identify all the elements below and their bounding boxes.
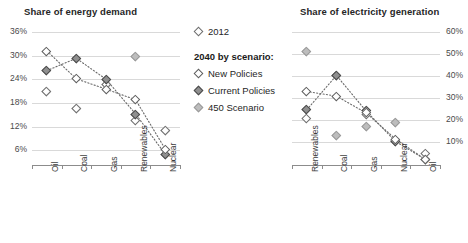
figure-root: Share of energy demand 36%30%24%18%12%6%… xyxy=(0,0,468,243)
series-connector-line xyxy=(32,32,180,162)
legend-item-label: 2012 xyxy=(208,26,229,37)
diamond-icon xyxy=(42,46,51,55)
y-axis-tick-label: 30% xyxy=(446,93,463,102)
data-point-marker xyxy=(131,95,140,104)
x-axis-tick xyxy=(150,165,151,169)
legend-item-current[interactable]: Current Policies xyxy=(193,85,275,96)
gridline xyxy=(32,150,180,151)
plot-area-left xyxy=(32,32,180,162)
chart-legend: 2040 by scenario: 2012New PoliciesCurren… xyxy=(190,0,282,243)
diamond-icon xyxy=(72,104,81,113)
diamond-icon xyxy=(391,118,400,127)
x-axis-category-label: Oil xyxy=(51,162,60,172)
y-axis-tick-label: 60% xyxy=(446,27,463,36)
legend-diamond-icon xyxy=(193,68,204,79)
diamond-icon xyxy=(101,84,110,93)
legend-item-label: 450 Scenario xyxy=(208,102,264,113)
diamond-icon xyxy=(72,74,81,83)
x-axis-category-label: Gas xyxy=(370,156,379,172)
x-axis-tick xyxy=(180,165,181,169)
data-point-marker xyxy=(302,47,311,56)
gridline xyxy=(292,32,440,33)
legend-diamond-icon xyxy=(193,26,204,37)
y-axis-tick-label: 50% xyxy=(446,49,463,58)
diamond-icon xyxy=(160,126,169,135)
chart-title-right: Share of electricity generation xyxy=(300,6,439,17)
data-point-marker xyxy=(42,66,51,75)
x-axis-tick xyxy=(91,165,92,169)
data-point-marker xyxy=(131,52,140,61)
x-axis-category-label: Oil xyxy=(429,162,438,172)
diamond-icon xyxy=(302,114,311,123)
diamond-icon xyxy=(131,95,140,104)
diamond-icon xyxy=(42,66,51,75)
data-point-marker xyxy=(72,74,81,83)
gridline xyxy=(292,76,440,77)
x-axis-tick xyxy=(32,165,33,169)
gridline xyxy=(32,32,180,33)
data-point-marker xyxy=(161,126,170,135)
x-axis-category-label: Nuclear xyxy=(400,143,409,172)
x-axis-tick xyxy=(440,165,441,169)
gridline xyxy=(32,127,180,128)
diamond-icon xyxy=(302,105,311,114)
legend-item-label: Current Policies xyxy=(208,85,275,96)
data-point-marker xyxy=(302,105,311,114)
diamond-icon xyxy=(332,131,341,140)
x-axis-tick xyxy=(292,165,293,169)
gridline xyxy=(32,103,180,104)
y-axis-tick-label: 30% xyxy=(0,51,27,60)
diamond-icon xyxy=(302,87,311,96)
x-axis-category-label: Renewables xyxy=(311,125,320,172)
data-point-marker xyxy=(332,71,341,80)
gridline xyxy=(292,98,440,99)
diamond-icon xyxy=(361,108,370,117)
gridline xyxy=(292,54,440,55)
data-point-marker xyxy=(131,109,140,118)
data-point-marker xyxy=(72,54,81,63)
legend-item-450[interactable]: 450 Scenario xyxy=(193,102,264,113)
diamond-icon xyxy=(42,86,51,95)
legend-item-2012[interactable]: 2012 xyxy=(193,26,229,37)
legend-item-new[interactable]: New Policies xyxy=(193,68,262,79)
x-axis-tick xyxy=(121,165,122,169)
diamond-icon xyxy=(332,91,341,100)
diamond-icon xyxy=(72,54,81,63)
diamond-icon xyxy=(131,51,140,60)
data-point-marker xyxy=(362,122,371,131)
data-point-marker xyxy=(391,118,400,127)
data-point-marker xyxy=(332,131,341,140)
y-axis-tick-label: 24% xyxy=(0,74,27,83)
diamond-icon xyxy=(302,47,311,56)
x-axis-category-label: Renewables xyxy=(140,125,149,172)
y-axis-tick-label: 10% xyxy=(446,137,463,146)
data-point-marker xyxy=(42,87,51,96)
data-point-marker xyxy=(102,75,111,84)
chart-title-left: Share of energy demand xyxy=(24,6,137,17)
y-axis-tick-label: 36% xyxy=(0,27,27,36)
diamond-icon xyxy=(131,109,140,118)
legend-item-label: New Policies xyxy=(208,68,262,79)
x-axis-tick xyxy=(410,165,411,169)
y-axis-tick-label: 20% xyxy=(446,115,463,124)
diamond-icon xyxy=(101,74,110,83)
x-axis-tick xyxy=(351,165,352,169)
data-point-marker xyxy=(72,104,81,113)
legend-diamond-icon xyxy=(193,102,204,113)
legend-diamond-icon xyxy=(193,85,204,96)
chart-panel-energy-demand: Share of energy demand 36%30%24%18%12%6%… xyxy=(0,0,188,243)
data-point-marker xyxy=(102,85,111,94)
diamond-icon xyxy=(361,122,370,131)
x-axis-category-label: Coal xyxy=(340,155,349,172)
chart-panel-electricity-generation: Share of electricity generation 60%50%40… xyxy=(280,0,468,243)
diamond-icon xyxy=(332,71,341,80)
x-axis-category-label: Nuclear xyxy=(169,143,178,172)
y-axis-tick-label: 6% xyxy=(0,145,27,154)
x-axis-tick xyxy=(322,165,323,169)
x-axis-tick xyxy=(62,165,63,169)
data-point-marker xyxy=(332,92,341,101)
gridline xyxy=(32,56,180,57)
x-axis-tick xyxy=(381,165,382,169)
legend-heading: 2040 by scenario: xyxy=(194,51,274,62)
data-point-marker xyxy=(302,114,311,123)
